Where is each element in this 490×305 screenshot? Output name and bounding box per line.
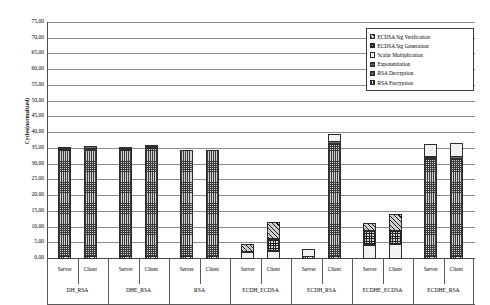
legend-item: RSA Decryption bbox=[370, 69, 470, 78]
bar-segment bbox=[119, 150, 133, 257]
legend-swatch-icon bbox=[370, 34, 375, 39]
bar-ecdh_rsa-server bbox=[302, 249, 316, 258]
y-axis-tick-label: 10,00 bbox=[10, 224, 44, 230]
bar-segment bbox=[145, 148, 159, 257]
x-axis-grouptick bbox=[169, 258, 170, 304]
x-axis-grouptick bbox=[413, 258, 414, 304]
x-axis-group-label: DHE_RSA bbox=[108, 287, 169, 293]
legend-label: RSA Encryption bbox=[377, 80, 413, 86]
legend-swatch-icon bbox=[370, 43, 375, 48]
y-axis-tick-label: 65,00 bbox=[10, 51, 44, 57]
x-axis-group-label: ECDH_RSA bbox=[291, 287, 352, 293]
y-axis-tick-label: 30,00 bbox=[10, 161, 44, 167]
y-axis-tick-labels: 75,0070,0065,0060,0055,0050,0045,0040,00… bbox=[8, 0, 44, 305]
y-axis-tick-label: 35,00 bbox=[10, 145, 44, 151]
y-axis-tick-label: 60,00 bbox=[10, 66, 44, 72]
bar-segment bbox=[328, 144, 342, 257]
legend-label: Scalar Multiplication bbox=[377, 52, 423, 58]
x-axis-grouptick bbox=[108, 258, 109, 304]
bar-segment bbox=[450, 159, 464, 257]
bar-dhe_rsa-server bbox=[119, 147, 133, 258]
legend-item: ECDSA Sig Generation bbox=[370, 41, 470, 50]
bar-dh_rsa-client bbox=[84, 146, 98, 258]
legend-item: ECDSA Sig Verification bbox=[370, 32, 470, 41]
bar-dhe_rsa-client bbox=[145, 145, 159, 258]
bar-segment bbox=[389, 244, 403, 258]
x-axis-grouptick bbox=[230, 258, 231, 304]
x-axis-sublabel: Client bbox=[253, 266, 293, 272]
x-axis-subtick bbox=[200, 258, 201, 284]
x-axis-grouptick bbox=[47, 258, 48, 304]
y-axis-tick-label: 70,00 bbox=[10, 35, 44, 41]
y-axis-tick-label: 20,00 bbox=[10, 192, 44, 198]
y-axis-tick-label: 75,00 bbox=[10, 19, 44, 25]
bar-segment bbox=[267, 239, 281, 253]
bar-ecdhe_rsa-server bbox=[424, 144, 438, 258]
y-axis-tick-label: 25,00 bbox=[10, 177, 44, 183]
x-axis-grouptick bbox=[291, 258, 292, 304]
legend-item: Exponentiation bbox=[370, 60, 470, 69]
bar-segment bbox=[267, 222, 281, 239]
legend-swatch-icon bbox=[370, 62, 375, 67]
y-axis-tick-label: 15,00 bbox=[10, 208, 44, 214]
x-axis-sublabel: Client bbox=[70, 266, 110, 272]
x-axis-subtick bbox=[383, 258, 384, 284]
legend-swatch-icon bbox=[370, 52, 375, 57]
x-axis-group-label: ECDH_ECDSA bbox=[230, 287, 291, 293]
legend-label: RSA Decryption bbox=[377, 70, 413, 76]
legend-item: RSA Encryption bbox=[370, 78, 470, 87]
bar-segment bbox=[84, 149, 98, 257]
bar-segment bbox=[424, 144, 438, 158]
x-axis-sublabel: Client bbox=[192, 266, 232, 272]
x-axis-group-label: ECDHE_ECDSA bbox=[352, 287, 413, 293]
legend-label: ECDSA Sig Generation bbox=[377, 43, 428, 49]
x-axis-subtick bbox=[322, 258, 323, 284]
x-axis-grouptick bbox=[473, 258, 474, 304]
y-axis-tick-label: 0,00 bbox=[10, 255, 44, 261]
bar-segment bbox=[450, 143, 464, 157]
x-axis-sublabel: Client bbox=[375, 266, 415, 272]
x-axis-subtick bbox=[78, 258, 79, 284]
bar-segment bbox=[206, 150, 220, 257]
x-axis-group-label: RSA bbox=[169, 287, 230, 293]
x-axis-labels: ServerClientDH_RSAServerClientDHE_RSASer… bbox=[47, 258, 475, 305]
bar-dh_rsa-server bbox=[58, 147, 72, 258]
bar-ecdh_ecdsa-client bbox=[267, 222, 281, 258]
x-axis-sublabel: Client bbox=[131, 266, 171, 272]
y-axis-tick-label: 50,00 bbox=[10, 98, 44, 104]
bar-segment bbox=[389, 214, 403, 232]
chart-legend: ECDSA Sig VerificationECDSA Sig Generati… bbox=[366, 28, 474, 91]
stacked-bar-chart: Cycles(normalized) 75,0070,0065,0060,005… bbox=[0, 0, 490, 305]
legend-label: Exponentiation bbox=[377, 61, 410, 67]
bar-segment bbox=[363, 245, 377, 259]
y-axis-tick-label: 55,00 bbox=[10, 82, 44, 88]
bar-rsa-client bbox=[206, 150, 220, 258]
x-axis-subtick bbox=[444, 258, 445, 284]
legend-item: Scalar Multiplication bbox=[370, 50, 470, 59]
legend-swatch-icon bbox=[370, 80, 375, 85]
bar-ecdh_ecdsa-server bbox=[241, 244, 255, 258]
bar-segment bbox=[424, 159, 438, 257]
bar-segment bbox=[58, 150, 72, 257]
x-axis-subtick bbox=[139, 258, 140, 284]
bar-ecdhe_ecdsa-server bbox=[363, 223, 377, 258]
y-axis-tick-label: 5,00 bbox=[10, 239, 44, 245]
y-axis-tick-label: 40,00 bbox=[10, 129, 44, 135]
legend-label: ECDSA Sig Verification bbox=[377, 34, 430, 40]
x-axis-sublabel: Client bbox=[436, 266, 476, 272]
x-axis-sublabel: Client bbox=[314, 266, 354, 272]
x-axis-grouptick bbox=[352, 258, 353, 304]
bar-rsa-server bbox=[180, 150, 194, 258]
bar-segment bbox=[180, 150, 194, 257]
x-axis-subtick bbox=[261, 258, 262, 284]
bar-segment bbox=[389, 230, 403, 244]
bar-ecdhe_rsa-client bbox=[450, 143, 464, 258]
x-axis-group-label: DH_RSA bbox=[47, 287, 108, 293]
bar-segment bbox=[363, 231, 377, 245]
legend-swatch-icon bbox=[370, 71, 375, 76]
x-axis-group-label: ECDHE_RSA bbox=[413, 287, 474, 293]
bar-ecdh_rsa-client bbox=[328, 134, 342, 258]
bar-ecdhe_ecdsa-client bbox=[389, 214, 403, 258]
y-axis-tick-label: 45,00 bbox=[10, 114, 44, 120]
